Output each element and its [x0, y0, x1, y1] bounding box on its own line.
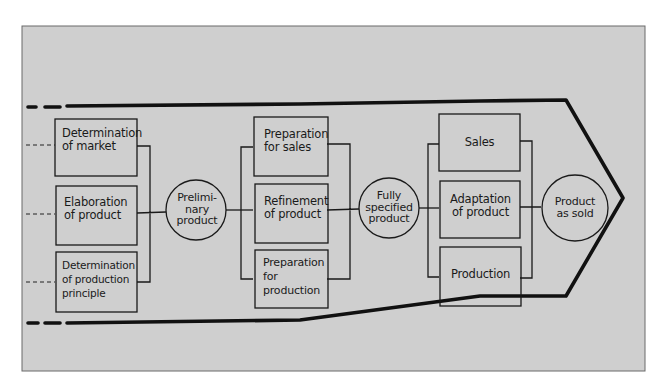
label-line: Production [440, 268, 521, 281]
label-adaptation-of-product: Adaptation of product [440, 193, 521, 219]
label-preparation-for-sales: Preparation for sales [264, 128, 328, 154]
label-line: product [170, 215, 224, 227]
label-determination-of-production-principle: Determination of production principle [62, 258, 135, 300]
label-line: of production [62, 272, 135, 286]
label-line: Sales [439, 136, 520, 149]
label-product-as-sold: Product as sold [545, 196, 605, 219]
label-line: of product [64, 209, 127, 222]
label-line: product [361, 213, 417, 225]
label-line: as sold [545, 208, 605, 220]
label-preparation-for-production: Preparation for production [263, 256, 324, 298]
label-determination-of-market: Determination of market [62, 127, 142, 153]
label-fully-specified-product: Fully specified product [361, 190, 417, 225]
label-line: of product [264, 208, 328, 221]
label-line: Determination [62, 258, 135, 272]
label-line: for [263, 270, 324, 284]
label-line: of market [62, 140, 142, 153]
label-line: Product [545, 196, 605, 208]
label-elaboration-of-product: Elaboration of product [64, 196, 127, 222]
label-line: for sales [264, 141, 328, 154]
label-refinement-of-product: Refinement of product [264, 195, 328, 221]
label-line: principle [62, 286, 135, 300]
label-line: production [263, 284, 324, 298]
label-preliminary-product: Prelimi- nary product [170, 192, 224, 227]
label-line: Fully [361, 190, 417, 202]
label-production: Production [440, 268, 521, 281]
label-line: Preparation [263, 256, 324, 270]
label-sales: Sales [439, 136, 520, 149]
diagram-canvas: Determination of market Elaboration of p… [0, 0, 656, 391]
label-line: Prelimi- [170, 192, 224, 204]
label-line: of product [440, 206, 521, 219]
